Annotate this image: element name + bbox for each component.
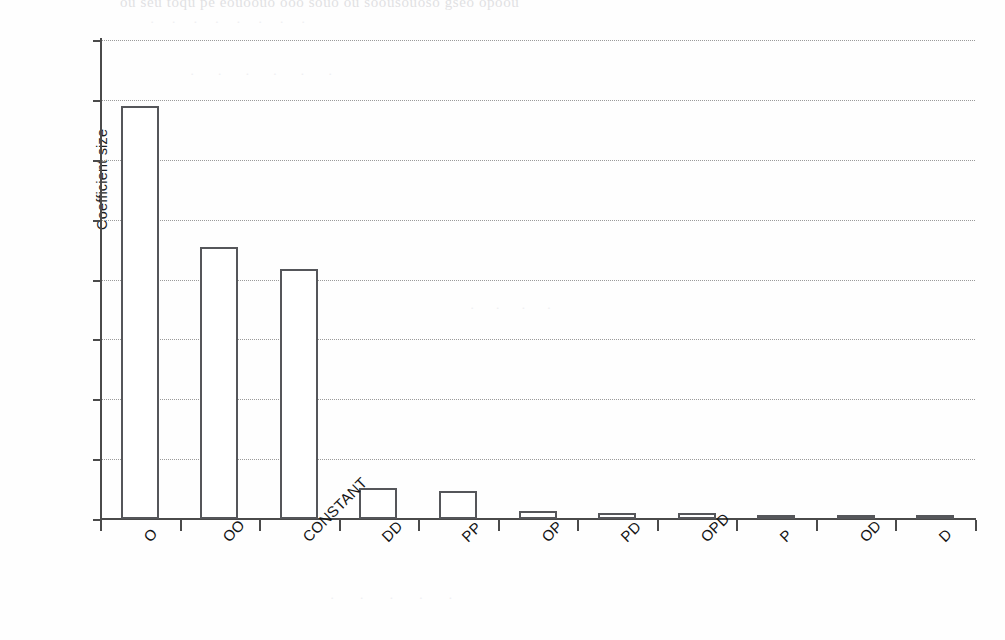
x-axis-tick	[418, 520, 420, 531]
y-axis-tick	[93, 220, 100, 222]
bar	[200, 247, 238, 519]
y-axis-tick	[93, 160, 100, 162]
y-axis-tick	[93, 280, 100, 282]
x-axis-tick	[100, 520, 102, 531]
x-axis-tick	[339, 520, 341, 531]
bar	[678, 513, 716, 519]
x-axis-tick	[577, 520, 579, 531]
bar	[439, 491, 477, 519]
bar	[359, 488, 397, 519]
bar	[280, 269, 318, 519]
bar	[757, 515, 795, 519]
x-axis-tick	[498, 520, 500, 531]
bar	[121, 106, 159, 519]
x-axis-tick	[259, 520, 261, 531]
y-axis-tick	[93, 399, 100, 401]
x-axis-tick	[895, 520, 897, 531]
x-axis-tick-labels: OOOCONSTANTDDPPOPPDOPDPODD	[100, 533, 976, 633]
x-axis-tick	[975, 520, 977, 531]
bar-series	[100, 40, 975, 519]
bar	[916, 515, 954, 519]
y-axis-tick	[93, 519, 100, 521]
bar	[519, 511, 557, 519]
y-axis-tick	[93, 100, 100, 102]
scan-bleed-through-a: · · · · · · · ·	[150, 14, 312, 30]
y-axis-tick	[93, 459, 100, 461]
x-axis-tick	[657, 520, 659, 531]
y-axis-tick	[93, 40, 100, 42]
x-axis-tick	[736, 520, 738, 531]
bar-chart-figure: ou seu toqu pe eouoouo ooo souo ou soous…	[0, 0, 1005, 640]
x-axis-tick	[816, 520, 818, 531]
y-axis-tick	[93, 339, 100, 341]
x-axis-tick	[180, 520, 182, 531]
